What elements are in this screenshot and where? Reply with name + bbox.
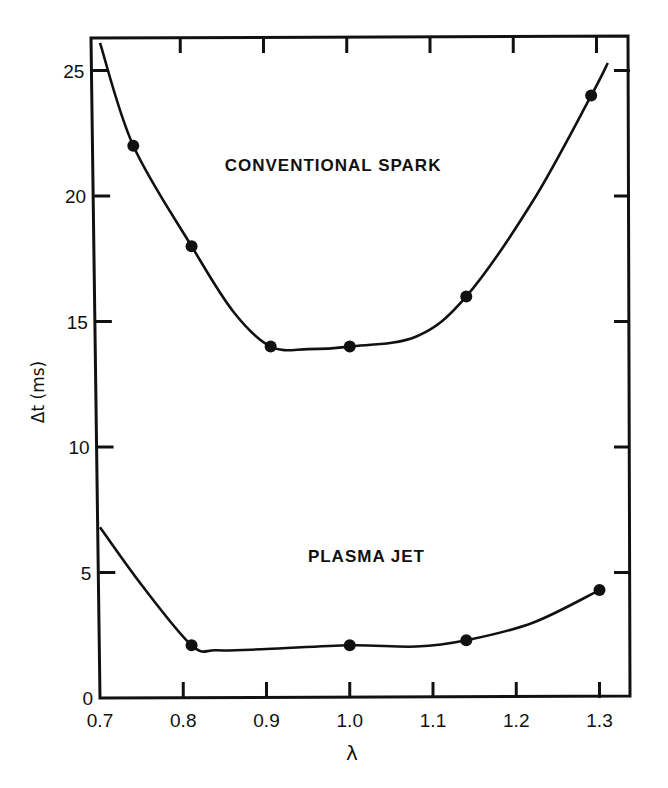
y-axis-title: Δt (ms)	[28, 361, 48, 423]
plot-frame	[91, 36, 630, 698]
series-label: PLASMA JET	[308, 547, 425, 566]
conventional-spark-data-point	[585, 90, 597, 102]
series-annotations: CONVENTIONAL SPARKPLASMA JET	[225, 156, 442, 567]
conventional-spark-data-point	[344, 341, 356, 353]
conventional-spark-data-point	[186, 240, 198, 252]
axes-box	[91, 36, 630, 698]
plasma-jet-curve	[100, 527, 600, 651]
conventional-spark-data-point	[265, 341, 277, 353]
plasma-jet-data-point	[460, 634, 472, 646]
x-tick-label: 1.3	[586, 710, 612, 731]
line-chart: 0.70.80.91.01.11.21.3 0510152025 CONVENT…	[0, 0, 668, 788]
plasma-jet-data-point	[594, 584, 606, 596]
x-tick-label: 0.9	[253, 710, 279, 731]
y-tick-label: 20	[65, 186, 86, 207]
plasma-jet-data-point	[344, 639, 356, 651]
x-tick-label: 0.7	[87, 710, 113, 731]
x-axis-title: λ	[346, 741, 358, 765]
plasma-jet-data-point	[186, 639, 198, 651]
x-tick-label: 1.0	[337, 710, 363, 731]
y-tick-label: 25	[63, 61, 84, 82]
conventional-spark-data-point	[460, 290, 472, 302]
conventional-spark-data-point	[127, 140, 139, 152]
y-tick-label: 0	[82, 688, 93, 709]
x-tick-label: 1.1	[420, 710, 446, 731]
x-tick-label: 1.2	[503, 710, 529, 731]
conventional-spark-curve	[100, 43, 608, 350]
y-tick-label: 5	[81, 563, 92, 584]
x-axis-ticks: 0.70.80.91.01.11.21.3	[87, 37, 613, 731]
y-tick-label: 10	[68, 437, 89, 458]
x-tick-label: 0.8	[170, 710, 196, 731]
y-tick-label: 15	[67, 312, 88, 333]
series-label: CONVENTIONAL SPARK	[225, 156, 442, 175]
